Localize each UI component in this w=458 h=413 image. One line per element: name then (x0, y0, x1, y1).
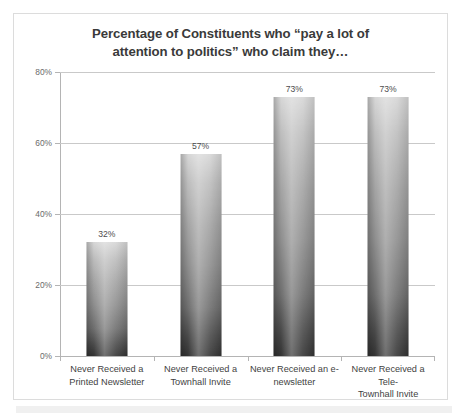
category-label-4: Never Received a Tele- Townhall Invite (341, 363, 435, 401)
chart-title-line-1: Percentage of Constituents who “pay a lo… (34, 25, 427, 43)
page-bottom-strip (16, 406, 452, 413)
x-tick-2 (248, 356, 249, 361)
category-label-1-line-1: Never Received a (60, 363, 154, 376)
bar-never-received-printed-newsletter[interactable] (86, 242, 127, 356)
chart-canvas: Percentage of Constituents who “pay a lo… (0, 0, 458, 413)
bar-value-2: 57% (192, 141, 209, 151)
x-tick-0 (60, 356, 61, 361)
chart-title: Percentage of Constituents who “pay a lo… (34, 25, 427, 61)
bar-value-1: 32% (98, 229, 115, 239)
chart-title-line-2: attention to politics” who claim they… (34, 43, 427, 61)
category-labels: Never Received a Printed Newsletter Neve… (60, 363, 435, 399)
bar-slot-1: 32% (60, 72, 154, 356)
category-label-3-line-1: Never Received an e- (248, 363, 342, 376)
bar-slot-4: 73% (341, 72, 435, 356)
bar-slot-3: 73% (248, 72, 342, 356)
category-label-2: Never Received a Townhall Invite (154, 363, 248, 388)
bar-value-3: 73% (286, 84, 303, 94)
chart-frame: Percentage of Constituents who “pay a lo… (13, 13, 448, 400)
category-label-4-line-1: Never Received a Tele- (341, 363, 435, 388)
category-axis-line (60, 356, 435, 357)
category-label-3-line-2: newsletter (248, 376, 342, 389)
x-tick-4 (434, 356, 435, 361)
bar-value-4: 73% (380, 84, 397, 94)
category-label-1-line-2: Printed Newsletter (60, 376, 154, 389)
category-label-2-line-1: Never Received a (154, 363, 248, 376)
x-tick-3 (341, 356, 342, 361)
bar-slot-2: 57% (154, 72, 248, 356)
bar-never-received-tele-townhall-invite[interactable] (368, 97, 409, 356)
bar-never-received-e-newsletter[interactable] (274, 97, 315, 356)
bar-never-received-townhall-invite[interactable] (180, 154, 221, 356)
category-label-4-line-2: Townhall Invite (341, 388, 435, 401)
category-label-2-line-2: Townhall Invite (154, 376, 248, 389)
y-axis-label-80: 80% (35, 67, 52, 77)
y-axis-label-0: 0% (40, 351, 52, 361)
y-axis-label-40: 40% (35, 209, 52, 219)
plot-area: 80% 60% 40% 20% 0% (60, 72, 435, 356)
y-axis-label-20: 20% (35, 280, 52, 290)
category-label-3: Never Received an e- newsletter (248, 363, 342, 388)
y-axis-label-60: 60% (35, 138, 52, 148)
category-label-1: Never Received a Printed Newsletter (60, 363, 154, 388)
x-tick-1 (154, 356, 155, 361)
